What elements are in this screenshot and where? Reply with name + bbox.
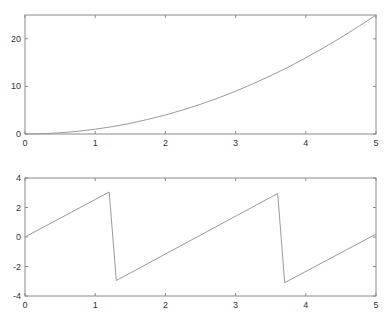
x-tick-label: 1 [93, 300, 98, 310]
x-tick-label: 1 [93, 138, 98, 148]
y-tick-label: 0 [16, 232, 21, 242]
y-tick-label: -2 [13, 262, 21, 272]
bottom-plot-sawtooth: 012345-4-2024 [13, 173, 379, 310]
figure: 01234501020 012345-4-2024 [0, 0, 390, 323]
x-tick-label: 2 [163, 138, 168, 148]
y-tick-label: 4 [16, 173, 21, 183]
x-tick-label: 2 [163, 300, 168, 310]
y-tick-label: 2 [16, 203, 21, 213]
x-tick-label: 4 [303, 138, 308, 148]
data-line [25, 192, 376, 283]
x-tick-label: 3 [233, 300, 238, 310]
x-tick-label: 5 [373, 300, 378, 310]
axes-frame [25, 15, 376, 134]
x-tick-label: 4 [303, 300, 308, 310]
x-tick-label: 0 [22, 138, 27, 148]
x-tick-label: 3 [233, 138, 238, 148]
y-tick-label: 0 [16, 129, 21, 139]
x-tick-label: 0 [22, 300, 27, 310]
data-line [25, 15, 376, 134]
y-tick-label: -4 [13, 291, 21, 301]
axes-frame [25, 178, 376, 296]
x-tick-label: 5 [373, 138, 378, 148]
top-plot-parabola: 01234501020 [11, 15, 379, 148]
y-tick-label: 20 [11, 34, 21, 44]
y-tick-label: 10 [11, 81, 21, 91]
